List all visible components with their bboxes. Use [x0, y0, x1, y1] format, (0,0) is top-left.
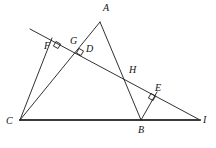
vertex-label-D: D	[85, 43, 94, 54]
vertex-label-E: E	[154, 82, 161, 93]
vertex-labels-group: ABCDEFGHI	[6, 2, 207, 135]
right-angle-marks-group	[53, 41, 155, 100]
vertex-label-C: C	[6, 115, 13, 126]
diagram-canvas: ABCDEFGHI	[0, 0, 216, 148]
segments-group	[20, 22, 200, 120]
seg-AC	[20, 22, 100, 120]
vertex-label-A: A	[102, 2, 110, 13]
vertex-label-I: I	[202, 114, 207, 125]
vertex-label-F: F	[43, 40, 51, 51]
vertex-label-H: H	[128, 64, 137, 75]
vertex-label-B: B	[138, 124, 144, 135]
seg-BE	[141, 92, 157, 120]
vertex-label-G: G	[70, 35, 77, 46]
geometry-figure: ABCDEFGHI	[0, 0, 216, 148]
